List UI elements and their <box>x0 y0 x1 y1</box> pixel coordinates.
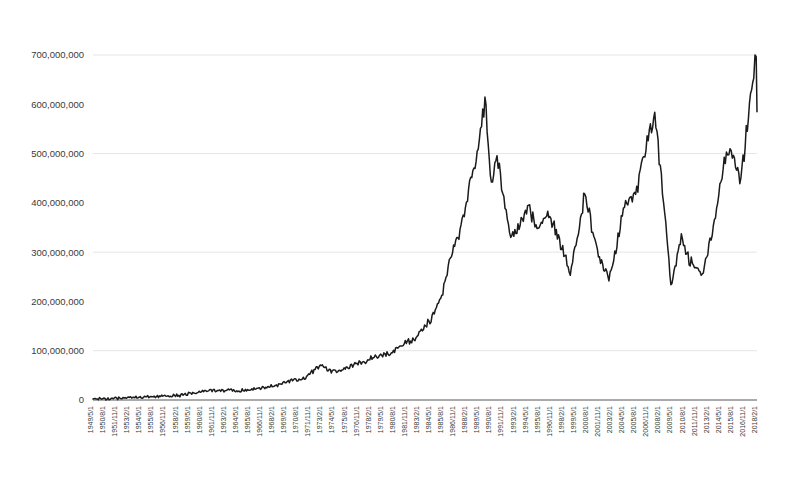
data-series <box>93 55 757 400</box>
x-axis-tick-label: 1976/11/1 <box>353 406 360 437</box>
x-axis-tick-label: 1953/2/1 <box>123 406 130 433</box>
x-axis-tick-label: 1995/8/1 <box>534 406 541 433</box>
x-axis-tick-label: 1950/8/1 <box>99 406 106 433</box>
x-axis-tick-label: 2018/2/1 <box>751 406 758 433</box>
x-axis-tick-label: 1990/8/1 <box>485 406 492 433</box>
x-axis-tick-label: 1956/11/1 <box>159 406 166 437</box>
x-axis-tick-label: 1983/2/1 <box>413 406 420 433</box>
x-axis-tick-label: 1984/5/1 <box>425 406 432 433</box>
x-axis-tick-label: 2014/5/1 <box>715 406 722 433</box>
x-axis-tick-label: 2008/2/1 <box>654 406 661 433</box>
x-axis-tick-label: 2005/8/1 <box>630 406 637 433</box>
x-axis-tick-label: 1968/2/1 <box>268 406 275 433</box>
x-axis-tick-label: 1963/2/1 <box>220 406 227 433</box>
x-axis-tick-label: 1951/11/1 <box>111 406 118 437</box>
x-axis-tick-label: 2010/8/1 <box>679 406 686 433</box>
x-axis-tick-label: 1949/5/1 <box>87 406 94 433</box>
x-axis-tick-labels: 1949/5/11950/8/11951/11/11953/2/11954/5/… <box>87 406 758 437</box>
x-axis-tick-label: 1973/2/1 <box>316 406 323 433</box>
x-axis-tick-label: 2001/11/1 <box>594 406 601 437</box>
x-axis-tick-label: 1971/11/1 <box>304 406 311 437</box>
x-axis-tick-label: 1970/8/1 <box>292 406 299 433</box>
x-axis-tick-label: 1996/11/1 <box>546 406 553 437</box>
x-axis-tick-label: 2000/8/1 <box>582 406 589 433</box>
x-axis-tick-label: 2011/11/1 <box>691 406 698 436</box>
x-axis-tick-label: 1978/2/1 <box>365 406 372 433</box>
y-axis-tick-label: 100,000,000 <box>31 345 84 356</box>
x-axis-tick-label: 1999/5/1 <box>570 406 577 433</box>
y-axis-tick-label: 600,000,000 <box>31 99 84 110</box>
gridlines <box>93 55 757 351</box>
y-axis-tick-labels: 700,000,000600,000,000500,000,000400,000… <box>31 49 84 405</box>
x-axis-tick-label: 2009/5/1 <box>666 406 673 433</box>
x-axis-tick-label: 1989/5/1 <box>473 406 480 433</box>
x-axis-tick-label: 1961/11/1 <box>208 406 215 437</box>
x-axis-tick-label: 1979/5/1 <box>377 406 384 433</box>
y-axis-tick-label: 300,000,000 <box>31 247 84 258</box>
y-axis-tick-label: 200,000,000 <box>31 296 84 307</box>
y-axis-tick-label: 400,000,000 <box>31 197 84 208</box>
x-axis-tick-label: 1986/11/1 <box>449 406 456 437</box>
y-axis-tick-label: 700,000,000 <box>31 49 84 60</box>
x-axis-tick-label: 1981/11/1 <box>401 406 408 437</box>
x-axis-tick-label: 1991/11/1 <box>497 406 504 437</box>
x-axis-tick-label: 2006/11/1 <box>642 406 649 437</box>
x-axis-tick-label: 1998/2/1 <box>558 406 565 433</box>
x-axis-tick-label: 2013/2/1 <box>703 406 710 433</box>
x-axis-tick-label: 2016/11/1 <box>739 406 746 437</box>
x-axis-tick-label: 2003/2/1 <box>606 406 613 433</box>
x-axis-tick-label: 1969/5/1 <box>280 406 287 433</box>
x-axis-tick-label: 1980/8/1 <box>389 406 396 433</box>
x-axis-tick-label: 1994/5/1 <box>522 406 529 433</box>
x-axis-tick-label: 1974/5/1 <box>328 406 335 433</box>
data-line <box>93 55 757 400</box>
x-axis-tick-label: 1966/11/1 <box>256 406 263 437</box>
line-chart: 700,000,000600,000,000500,000,000400,000… <box>0 0 785 483</box>
x-axis-tick-label: 1964/5/1 <box>232 406 239 433</box>
x-axis-tick-label: 1965/8/1 <box>244 406 251 433</box>
x-axis-tick-label: 1985/8/1 <box>437 406 444 433</box>
x-axis-tick-label: 2004/5/1 <box>618 406 625 433</box>
y-axis-tick-label: 0 <box>79 394 84 405</box>
x-axis-tick-label: 1988/2/1 <box>461 406 468 433</box>
x-axis-tick-label: 1975/8/1 <box>341 406 348 433</box>
x-axis-tick-label: 1959/5/1 <box>184 406 191 433</box>
x-axis-tick-label: 1993/2/1 <box>510 406 517 433</box>
x-axis-tick-label: 1958/2/1 <box>172 406 179 433</box>
x-axis-tick-label: 1954/5/1 <box>135 406 142 433</box>
y-axis-tick-label: 500,000,000 <box>31 148 84 159</box>
x-axis-tick-label: 1960/8/1 <box>196 406 203 433</box>
x-axis-tick-label: 1955/8/1 <box>147 406 154 433</box>
chart-container: 700,000,000600,000,000500,000,000400,000… <box>0 0 785 483</box>
x-axis-tick-label: 2015/8/1 <box>727 406 734 433</box>
